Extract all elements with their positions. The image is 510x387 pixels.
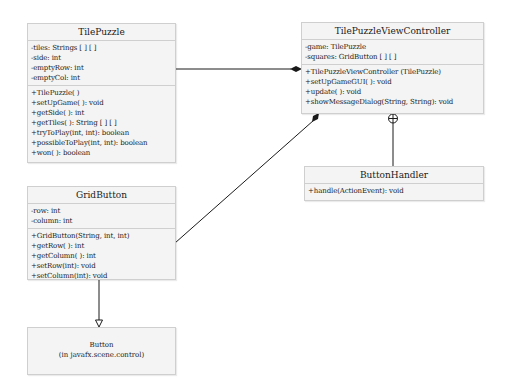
method: +update( ): void	[305, 87, 480, 97]
method: +handle(ActionEvent): void	[308, 186, 480, 196]
package-label: (in javafx.scene.control)	[28, 350, 175, 360]
method: +showMessageDialog(String, String): void	[305, 97, 480, 107]
method: +setUpGame( ): void	[31, 98, 172, 108]
method: +getColumn( ): int	[31, 251, 172, 261]
method: +tryToPlay(int, int): boolean	[31, 128, 172, 138]
class-name: TilePuzzle	[28, 24, 175, 41]
class-tile-puzzle-view-controller: TilePuzzleViewController -game: TilePuzz…	[301, 22, 484, 114]
method: +GridButton(String, int, int)	[31, 231, 172, 241]
attribute: -emptyRow: int	[31, 63, 172, 73]
class-button-handler: ButtonHandler +handle(ActionEvent): void	[304, 166, 484, 201]
attribute: -side: int	[31, 53, 172, 63]
method: +getSide( ): int	[31, 108, 172, 118]
attribute: -game: TilePuzzle	[305, 42, 480, 52]
class-name: TilePuzzleViewController	[302, 23, 483, 40]
composition-gridbutton-connector	[175, 113, 319, 243]
method: +possibleToPlay(int, int): boolean	[31, 138, 172, 148]
methods-section: +GridButton(String, int, int) +getRow( )…	[28, 229, 175, 283]
attribute: -column: int	[31, 216, 172, 226]
methods-section: +handle(ActionEvent): void	[305, 184, 483, 198]
method: +setColumn(int): void	[31, 271, 172, 281]
attribute: -squares: GridButton [ ] [ ]	[305, 52, 480, 62]
attribute: -tiles: Strings [ ] [ ]	[31, 43, 172, 53]
class-grid-button: GridButton -row: int -column: int +GridB…	[27, 186, 176, 280]
composition-tilepuzzle-connector	[175, 66, 302, 72]
nesting-connector	[389, 114, 398, 166]
generalization-connector	[96, 279, 103, 327]
class-button-javafx: Button (in javafx.scene.control)	[27, 327, 176, 375]
method: +setRow(int): void	[31, 261, 172, 271]
attributes-section: -row: int -column: int	[28, 204, 175, 229]
attributes-section: -game: TilePuzzle -squares: GridButton […	[302, 40, 483, 65]
method: +TilePuzzleViewController (TilePuzzle)	[305, 67, 480, 77]
class-name: GridButton	[28, 187, 175, 204]
attribute: -row: int	[31, 206, 172, 216]
class-tile-puzzle: TilePuzzle -tiles: Strings [ ] [ ] -side…	[27, 23, 176, 163]
attributes-section: -tiles: Strings [ ] [ ] -side: int -empt…	[28, 41, 175, 86]
methods-section: +TilePuzzle( ) +setUpGame( ): void +getS…	[28, 86, 175, 160]
class-name: Button	[28, 340, 175, 350]
attribute: -emptyCol: int	[31, 73, 172, 83]
method: +TilePuzzle( )	[31, 88, 172, 98]
method: +setUpGameGUI( ): void	[305, 77, 480, 87]
methods-section: +TilePuzzleViewController (TilePuzzle) +…	[302, 65, 483, 109]
method: +getRow( ): int	[31, 241, 172, 251]
hollow-triangle-arrow-icon	[96, 320, 103, 327]
class-name: ButtonHandler	[305, 167, 483, 184]
method: +won( ): boolean	[31, 148, 172, 158]
nesting-plus-circle-icon	[389, 114, 398, 123]
filled-diamond-icon	[312, 113, 319, 122]
method: +getTiles( ): String [ ] [ ]	[31, 118, 172, 128]
